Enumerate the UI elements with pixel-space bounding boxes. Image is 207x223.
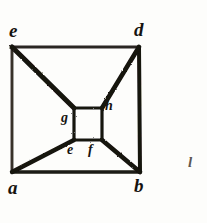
vertex-label-e-inner: e bbox=[67, 143, 73, 157]
outer-edge-right bbox=[139, 47, 140, 172]
vertex-label-a: a bbox=[8, 178, 18, 197]
vertex-label-h: h bbox=[105, 99, 113, 113]
vertex-label-b: b bbox=[134, 176, 144, 195]
vertex-label-d: d bbox=[134, 20, 144, 39]
figure-page: e d a b g h e f l bbox=[0, 0, 207, 223]
vertex-label-f: f bbox=[88, 143, 93, 157]
vertex-label-e-outer: e bbox=[9, 21, 17, 40]
diagonal-e-g bbox=[12, 47, 74, 108]
vertex-label-g: g bbox=[61, 111, 68, 125]
diagonal-b-f bbox=[102, 140, 140, 172]
diagonal-a-e bbox=[12, 140, 74, 172]
margin-mark: l bbox=[188, 155, 192, 170]
inner-square-edges bbox=[74, 108, 102, 140]
geometric-figure bbox=[0, 0, 207, 223]
